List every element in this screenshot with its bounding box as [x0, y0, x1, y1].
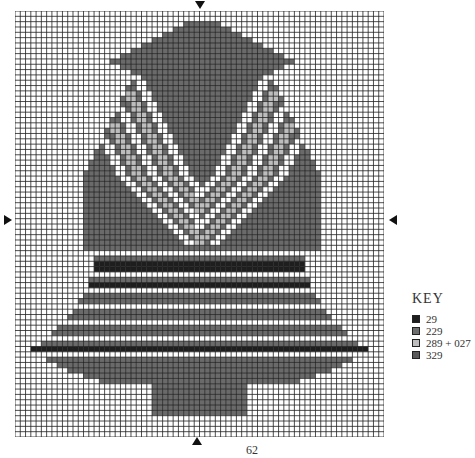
key-item: 29: [412, 313, 471, 325]
swatch-icon: [412, 327, 420, 335]
center-marker-right-icon: [389, 215, 397, 225]
color-key: KEY 29 229 289 + 027 329: [412, 291, 471, 361]
swatch-icon: [412, 315, 420, 323]
swatch-icon: [412, 339, 420, 347]
center-marker-left-icon: [4, 215, 12, 225]
swatch-icon: [412, 351, 420, 359]
key-item: 289 + 027: [412, 337, 471, 349]
center-marker-bottom-icon: [192, 437, 202, 445]
center-marker-top-icon: [195, 1, 205, 9]
page-number: 62: [246, 443, 258, 458]
key-item: 229: [412, 325, 471, 337]
bell-chart-grid: [15, 11, 384, 437]
key-item: 329: [412, 349, 471, 361]
key-title: KEY: [412, 291, 471, 307]
